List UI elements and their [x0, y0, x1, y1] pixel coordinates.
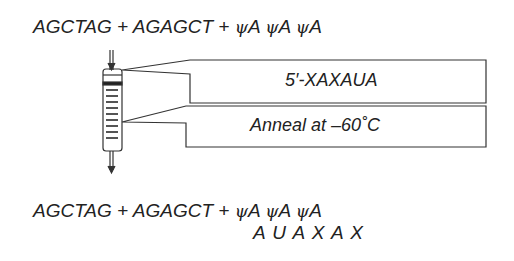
box-label-sequence: 5′-XAXAUA — [285, 70, 377, 91]
box-label-anneal: Anneal at –60˚C — [250, 115, 380, 136]
psi-symbol: ψ — [265, 201, 278, 221]
chromatography-column-icon — [103, 50, 122, 173]
psi-symbol: ψ — [235, 201, 248, 221]
psi-symbol: ψ — [296, 201, 309, 221]
bottom-equation: AGCTAG + AGAGCT + ψA ψA ψA — [33, 200, 322, 222]
equation-a: A — [248, 200, 260, 221]
equation-a: A — [279, 200, 291, 221]
equation-a: A — [309, 200, 322, 221]
bottom-equation-line2: A U A X A X — [253, 222, 363, 244]
equation-text: AGCTAG + AGAGCT + — [33, 200, 229, 221]
